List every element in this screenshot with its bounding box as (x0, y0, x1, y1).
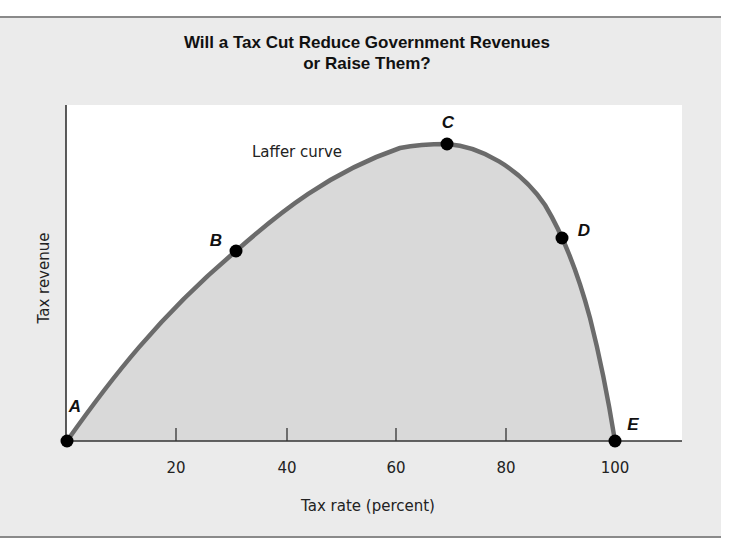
laffer-curve-label: Laffer curve (252, 143, 342, 161)
x-axis-label: Tax rate (percent) (300, 497, 435, 515)
point-c-marker (441, 138, 454, 151)
point-e-label: E (627, 415, 639, 434)
point-a-label: A (68, 397, 81, 416)
point-a-marker (61, 435, 74, 448)
x-tick-label: 60 (386, 459, 405, 477)
point-e-marker (609, 435, 622, 448)
point-d-label: D (578, 221, 590, 240)
x-tick-label: 80 (496, 459, 515, 477)
chart-title-line-1: Will a Tax Cut Reduce Government Revenue… (184, 33, 550, 52)
y-axis-label: Tax revenue (35, 233, 53, 325)
point-b-marker (230, 245, 243, 258)
x-tick-label: 20 (166, 459, 185, 477)
x-tick-label: 100 (601, 459, 630, 477)
point-d-marker (556, 232, 569, 245)
x-tick-label: 40 (277, 459, 296, 477)
point-b-label: B (210, 231, 222, 250)
point-c-label: C (442, 113, 455, 132)
chart-title-line-2: or Raise Them? (303, 54, 431, 73)
laffer-chart: Will a Tax Cut Reduce Government Revenue… (0, 0, 747, 556)
